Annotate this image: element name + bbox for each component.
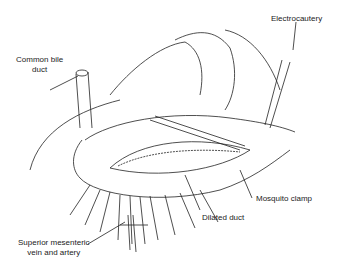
- surgical-illustration: [0, 0, 342, 272]
- label-electrocautery: Electrocautery: [271, 14, 322, 24]
- label-text: Superior mesenteric: [18, 238, 90, 248]
- label-text: vein and artery: [18, 248, 90, 258]
- label-dilated-duct: Dilated duct: [202, 213, 244, 223]
- label-superior-mesenteric: Superior mesenteric vein and artery: [18, 238, 90, 258]
- label-text: Common bile: [16, 55, 63, 65]
- label-common-bile-duct: Common bile duct: [16, 55, 63, 75]
- label-mosquito-clamp: Mosquito clamp: [256, 194, 312, 204]
- label-text: duct: [16, 65, 63, 75]
